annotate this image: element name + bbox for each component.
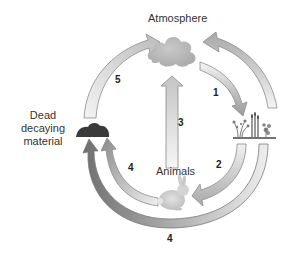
rabbit-icon — [157, 174, 189, 211]
dead-material-label: Dead decaying material — [20, 109, 66, 148]
dead-material-label-line-3: material — [20, 135, 66, 148]
dead-material-label-line-2: decaying — [20, 122, 66, 135]
arrow-4b-number: 4 — [167, 233, 173, 244]
arrow-5-number: 5 — [115, 74, 121, 85]
dead-material-mound-icon — [76, 123, 109, 137]
arrow-3-number: 3 — [178, 117, 184, 128]
arrow-1-number: 1 — [213, 87, 219, 98]
carbon-cycle-diagram: Atmosphere Animals Dead decaying materia… — [0, 0, 292, 255]
dead-material-label-line-1: Dead — [20, 109, 66, 122]
plants-icon — [233, 112, 277, 138]
animals-label: Animals — [156, 165, 195, 177]
arrow-2-number: 2 — [216, 159, 222, 170]
atmosphere-label: Atmosphere — [148, 12, 207, 24]
arrow-5-decomposition — [84, 34, 160, 118]
arrow-4a-number: 4 — [128, 162, 134, 173]
arrow-1-photosynthesis — [200, 62, 247, 116]
